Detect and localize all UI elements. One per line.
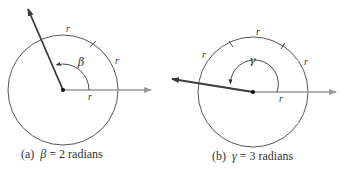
arc-label-b-top: r — [256, 26, 260, 37]
caption-a-prefix: (a) — [21, 147, 34, 161]
center-point-b — [251, 90, 255, 94]
arc-label-a-right: r — [115, 55, 119, 66]
terminal-ray-b — [172, 79, 253, 92]
diagram-svg: r r r β r r r r γ — [0, 0, 345, 169]
caption-b: (b) γ = 3 radians — [212, 149, 293, 164]
radius-label-b: r — [279, 93, 283, 104]
caption-a: (a) β = 2 radians — [21, 147, 103, 162]
arc-label-b-right: r — [304, 56, 308, 67]
radian-figure: r r r β r r r r γ (a) β = 2 radians (b) … — [0, 0, 345, 169]
tick-a-1 — [90, 41, 96, 47]
caption-b-prefix: (b) — [212, 149, 226, 163]
center-point-a — [61, 88, 65, 92]
caption-a-symbol: β — [40, 147, 46, 161]
caption-a-value: = 2 radians — [49, 147, 102, 161]
arc-label-a-top: r — [66, 23, 70, 34]
angle-label-a: β — [77, 56, 84, 69]
caption-b-value: = 3 radians — [240, 149, 293, 163]
terminal-ray-a — [28, 9, 63, 90]
figure-a: r r r β — [8, 9, 151, 145]
figure-b: r r r r γ — [172, 26, 336, 147]
caption-b-symbol: γ — [232, 149, 237, 163]
tick-b-2 — [281, 43, 285, 49]
arc-label-b-left: r — [202, 49, 206, 60]
radius-label-a: r — [88, 91, 92, 102]
angle-label-b: γ — [249, 54, 256, 67]
